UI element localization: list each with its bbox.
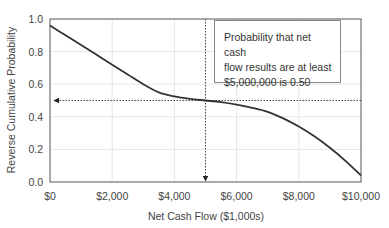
x-tick-label: $10,000 <box>342 190 380 202</box>
annotation-line-2: flow results are at least <box>224 60 332 75</box>
x-axis-ticks: $0$2,000$4,000$6,000$8,000$10,000 <box>44 190 380 202</box>
y-axis-ticks: 0.00.20.40.60.81.0 <box>28 13 43 188</box>
x-tick-label: $8,000 <box>283 190 315 202</box>
y-tick-label: 1.0 <box>28 13 43 25</box>
y-tick-label: 0.0 <box>28 176 43 188</box>
x-tick-label: $0 <box>44 190 56 202</box>
y-tick-label: 0.4 <box>28 111 43 123</box>
annotation-line-3: $5,000,000 is 0.50 <box>224 75 332 90</box>
y-tick-label: 0.2 <box>28 143 43 155</box>
y-tick-label: 0.6 <box>28 78 43 90</box>
x-axis-label: Net Cash Flow ($1,000s) <box>148 210 264 222</box>
annotation-line-1: Probability that net cash <box>224 30 332 60</box>
y-tick-label: 0.8 <box>28 46 43 58</box>
x-tick-label: $4,000 <box>158 190 190 202</box>
annotation-box: Probability that net cash flow results a… <box>214 20 341 83</box>
x-tick-label: $6,000 <box>221 190 253 202</box>
y-axis-label: Reverse Cumulative Probability <box>5 26 17 173</box>
x-tick-label: $2,000 <box>96 190 128 202</box>
